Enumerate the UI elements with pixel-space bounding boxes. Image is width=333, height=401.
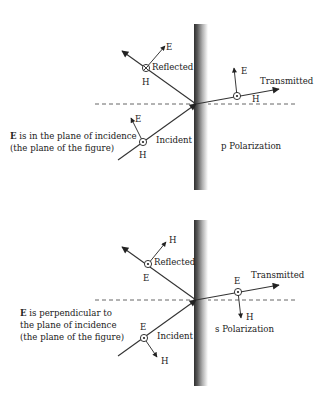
into-page-icon xyxy=(142,64,149,71)
out-of-page-icon xyxy=(233,92,240,99)
out-of-page-icon xyxy=(234,288,241,295)
fresnel-polarization-diagram: E H Reflected E H Incident E H Transmitt… xyxy=(0,0,333,401)
reflected-label: Reflected xyxy=(152,62,194,72)
transmitted-h-label: H xyxy=(252,94,260,104)
reflected-e-label: E xyxy=(166,42,172,52)
incident-label: Incident xyxy=(157,331,194,341)
reflected-ray xyxy=(122,51,196,104)
reflected-h-label: H xyxy=(169,235,177,245)
reflected-label: Reflected xyxy=(154,257,196,267)
incident-e-label: E xyxy=(140,322,146,332)
out-of-page-icon xyxy=(139,138,146,145)
panel-p-polarization: E H Reflected E H Incident E H Transmitt… xyxy=(10,24,314,190)
description-rest: is in the plane of incidence xyxy=(17,131,137,141)
description-line-2: (the plane of the figure) xyxy=(10,143,114,153)
description-line-1: E is in the plane of incidence xyxy=(10,131,137,141)
transmitted-e-label: E xyxy=(234,276,240,286)
incident-label: Incident xyxy=(156,135,193,145)
description-rest: is perpendicular to xyxy=(27,308,112,318)
reflected-e-label: E xyxy=(143,273,149,283)
reflected-ray xyxy=(122,247,196,300)
incident-h-label: H xyxy=(139,150,147,160)
polarization-label: s Polarization xyxy=(215,324,275,334)
transmitted-label: Transmitted xyxy=(260,76,314,86)
out-of-page-icon xyxy=(140,334,147,341)
transmitted-e-label: E xyxy=(241,66,247,76)
out-of-page-icon xyxy=(144,260,151,267)
transmitted-label: Transmitted xyxy=(251,270,305,280)
incident-e-label: E xyxy=(135,114,141,124)
panel-s-polarization: H E Reflected E H Incident E H Transmitt… xyxy=(20,220,305,386)
incident-ray xyxy=(118,300,196,356)
description-line-1: E is perpendicular to xyxy=(20,308,112,318)
interface-wall xyxy=(194,24,208,190)
description-line-2: the plane of incidence xyxy=(20,320,116,330)
transmitted-h-label: H xyxy=(246,312,254,322)
interface-wall xyxy=(194,220,208,386)
reflected-h-label: H xyxy=(142,77,150,87)
incident-h-label: H xyxy=(161,356,169,366)
transmitted-e-vector xyxy=(234,68,237,96)
description-line-3: (the plane of the figure) xyxy=(20,332,124,342)
polarization-label: p Polarization xyxy=(221,141,282,151)
